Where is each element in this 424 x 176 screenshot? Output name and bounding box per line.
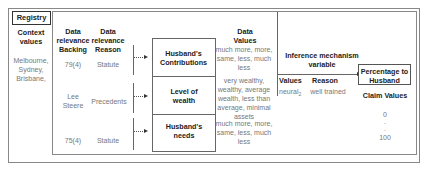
claim-values-header: Claim Values bbox=[362, 91, 408, 100]
row1-values: much more, more, same, less, much less bbox=[212, 45, 276, 72]
arrowhead-3 bbox=[144, 129, 148, 133]
factor-husbands-contributions: Husband's Contributions bbox=[153, 49, 214, 67]
row2-reason: Precedents bbox=[88, 97, 130, 106]
bracket-line-1 bbox=[133, 45, 134, 75]
row2-backing: Lee Steere bbox=[62, 92, 84, 110]
row1-reason: Statute bbox=[90, 60, 126, 69]
row1-backing: 79(4) bbox=[56, 60, 90, 69]
context-values: Melbourne, Sydney, Brisbane, bbox=[10, 56, 52, 83]
context-header: Context values bbox=[11, 28, 51, 46]
row2-values: very wealthy, wealthy, average wealth, l… bbox=[212, 76, 276, 121]
values-header: Values bbox=[279, 76, 307, 85]
factor-divider-1 bbox=[152, 76, 215, 77]
factor-divider-2 bbox=[152, 114, 215, 115]
bracket-line-3 bbox=[133, 118, 134, 150]
claim-value-dot-2: . bbox=[372, 124, 398, 133]
backing-header: Data relevance Backing bbox=[54, 27, 92, 54]
registry-box: Registry bbox=[12, 11, 51, 25]
inference-header: Inference mechanism variable bbox=[282, 51, 362, 69]
data-values-header: Data Values bbox=[215, 27, 275, 45]
inference-reason: well trained bbox=[303, 87, 353, 96]
reason2-header: Reason bbox=[305, 76, 345, 85]
factor-husbands-needs: Husband's needs bbox=[160, 122, 208, 140]
arrowhead-1 bbox=[144, 55, 148, 59]
factor-level-of-wealth: Level of wealth bbox=[160, 87, 208, 105]
inference-left-line bbox=[277, 12, 278, 96]
arrowhead-2 bbox=[144, 94, 148, 98]
inference-value-text: neural bbox=[279, 88, 298, 95]
bracket-line-2 bbox=[133, 83, 134, 113]
inference-value-sub: 2 bbox=[298, 91, 301, 97]
reason-header: Data relevance Reason bbox=[90, 27, 126, 54]
inference-arrow-line bbox=[278, 74, 358, 75]
claim-box: Percentage to Husband bbox=[358, 64, 411, 85]
row3-reason: Statute bbox=[90, 136, 126, 145]
claim-value-100: 100 bbox=[372, 133, 398, 142]
row3-backing: 75(4) bbox=[56, 136, 90, 145]
row3-values: much more, more, same, less, much less bbox=[212, 119, 276, 146]
